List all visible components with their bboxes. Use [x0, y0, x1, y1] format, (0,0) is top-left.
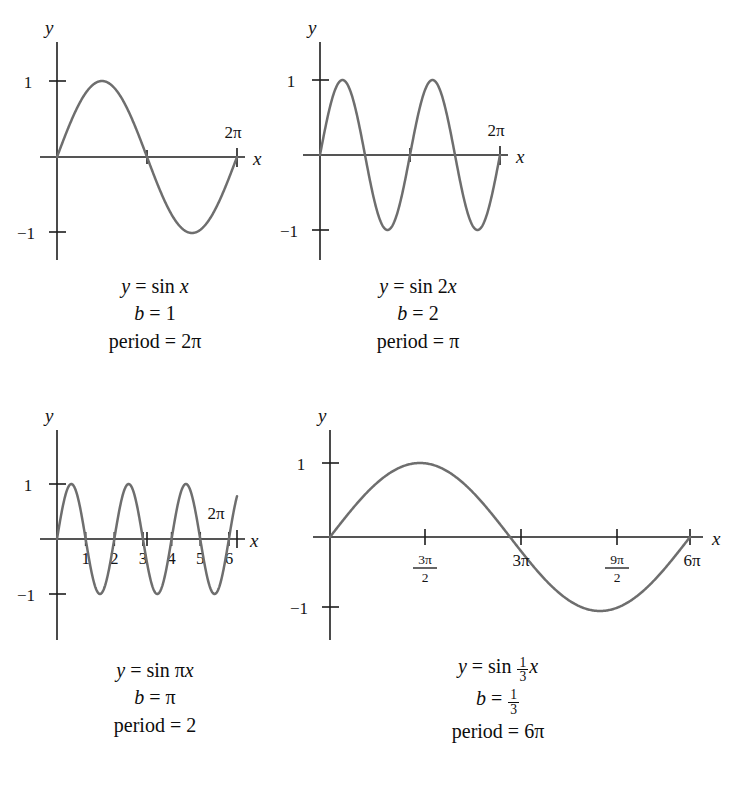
y-tick-label-minus-1: −1: [17, 586, 35, 605]
plot-sin-x: y x 1 −1 2π: [0, 0, 300, 270]
y-tick-label-minus-1: −1: [17, 224, 35, 243]
y-axis-label: y: [306, 17, 317, 38]
y-tick-label-1: 1: [24, 73, 33, 92]
plot-sin-2x: y x 1 −1 2π: [263, 0, 563, 270]
panel-sin-pix: 123456 y x 1 −1 2π y = sin πx b = π peri…: [0, 390, 300, 650]
caption-sin-x: y = sin x b = 1 period = 2π: [40, 272, 270, 355]
caption-line-period: period = 2: [40, 712, 270, 738]
frac-numerator: 9π: [610, 552, 624, 567]
caption-line-period: period = π: [303, 328, 533, 354]
frac-denominator: 3: [508, 703, 519, 717]
y-tick-label-minus-1: −1: [290, 599, 308, 618]
x-tick-label-2pi: 2π: [224, 123, 242, 142]
panel-sin-third-x: y x 1 −1 3π 2 3π 9π 2 6π: [263, 390, 733, 650]
frac-numerator: 1: [517, 656, 528, 671]
caption-line-function: y = sin 13x: [368, 653, 628, 684]
x-tick-label-9pi-over-2: 9π 2: [605, 552, 629, 585]
x-tick-label-6pi: 6π: [683, 551, 701, 570]
frac-numerator: 1: [508, 688, 519, 703]
caption-line-period: period = 2π: [40, 328, 270, 354]
frac-denominator: 3: [517, 670, 528, 684]
caption-line-b: b = 2: [303, 300, 533, 326]
caption-line-function: y = sin πx: [40, 657, 270, 683]
y-tick-label-1: 1: [287, 72, 296, 91]
caption-line-function: y = sin x: [40, 273, 270, 299]
x-tick-group: 123456: [81, 530, 237, 568]
panel-sin-2x: y x 1 −1 2π y = sin 2x b = 2 period = π: [263, 0, 563, 270]
plot-svg-sin-pix: 123456 y x 1 −1 2π: [0, 390, 300, 650]
x-axis-label: x: [515, 146, 525, 167]
plot-sin-third-x: y x 1 −1 3π 2 3π 9π 2 6π: [263, 390, 733, 650]
caption-line-b: b = π: [40, 684, 270, 710]
y-axis-label: y: [43, 17, 54, 38]
plot-svg-sin-2x: y x 1 −1 2π: [263, 0, 563, 270]
fraction-one-third: 13: [508, 688, 519, 717]
x-axis-label: x: [249, 530, 259, 551]
plot-sin-pix: 123456 y x 1 −1 2π: [0, 390, 300, 650]
caption-sin-third-x: y = sin 13x b = 13 period = 6π: [368, 652, 628, 745]
y-axis-label: y: [43, 405, 54, 426]
figure-grid: y x 1 −1 2π y = sin x b = 1 period = 2π: [0, 0, 750, 812]
caption-line-period: period = 6π: [368, 718, 628, 744]
plot-svg-sin-third-x: y x 1 −1 3π 2 3π 9π 2 6π: [263, 390, 733, 650]
y-tick-label-1: 1: [24, 476, 33, 495]
frac-denominator: 2: [422, 570, 429, 585]
frac-numerator: 3π: [418, 552, 432, 567]
y-tick-label-minus-1: −1: [280, 222, 298, 241]
page-bottom-artifact: [28, 798, 32, 810]
y-axis-label: y: [316, 405, 327, 426]
panel-sin-x: y x 1 −1 2π y = sin x b = 1 period = 2π: [0, 0, 300, 270]
x-tick-label-3pi-over-2: 3π 2: [413, 552, 437, 585]
x-tick-label-2pi: 2π: [207, 504, 225, 523]
caption-line-b: b = 1: [40, 300, 270, 326]
caption-sin-pix: y = sin πx b = π period = 2: [40, 656, 270, 739]
x-tick-label-2pi: 2π: [487, 121, 505, 140]
caption-line-b: b = 13: [368, 685, 628, 716]
x-axis-label: x: [252, 148, 262, 169]
frac-denominator: 2: [614, 570, 621, 585]
x-axis-label: x: [711, 528, 721, 549]
x-tick-label-3pi: 3π: [512, 551, 530, 570]
caption-line-function: y = sin 2x: [303, 273, 533, 299]
caption-sin-2x: y = sin 2x b = 2 period = π: [303, 272, 533, 355]
y-tick-label-1: 1: [297, 455, 306, 474]
plot-svg-sin-x: y x 1 −1 2π: [0, 0, 300, 270]
fraction-one-third: 13: [517, 656, 528, 685]
